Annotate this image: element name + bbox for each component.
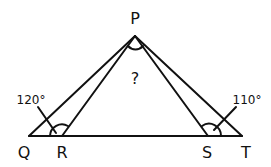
point-label-S: S [202,143,212,162]
segment-PS [135,36,208,136]
angle-label-110: 110° [233,93,262,107]
segment-PT [135,36,242,136]
point-label-R: R [56,143,67,162]
segment-PQ [29,36,135,136]
point-label-Q: Q [18,143,31,162]
angle-arc-P [128,46,143,49]
unknown-angle-label: ? [131,69,140,88]
angle-pointer-120 [38,107,56,133]
point-label-T: T [240,143,251,162]
geometry-diagram: P Q R S T 120° 110° ? [0,0,271,167]
segment-PR [62,36,135,136]
angle-label-120: 120° [17,93,46,107]
point-label-P: P [130,9,140,28]
